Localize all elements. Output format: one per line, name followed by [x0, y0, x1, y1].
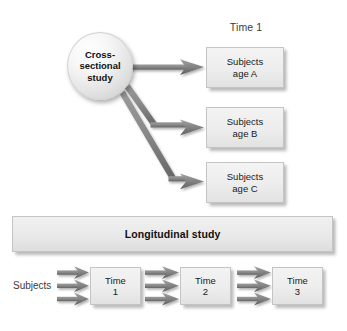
- subjects-age-b-label: Subjects age B: [227, 116, 263, 139]
- subjects-age-a-label: Subjects age A: [227, 56, 263, 79]
- subjects-age-a-line-1: Subjects: [227, 56, 263, 67]
- arrow-to-subjects-age-b: [125, 84, 204, 135]
- subjects-age-b-line-2: age B: [233, 128, 258, 139]
- longitudinal-subjects-label: Subjects: [13, 280, 51, 291]
- time-3-box[interactable]: Time 3: [272, 267, 323, 305]
- arrow-to-subjects-age-a: [129, 59, 204, 75]
- diagram-canvas: Time 1 Cross- sectional study Subjects a…: [0, 0, 347, 331]
- arrow-group-time-1-to-time-2: [145, 266, 179, 305]
- time-3-label: Time 3: [287, 275, 308, 298]
- subjects-age-a-box[interactable]: Subjects age A: [206, 47, 284, 88]
- longitudinal-study-label: Longitudinal study: [125, 228, 221, 240]
- subjects-age-b-box[interactable]: Subjects age B: [206, 107, 284, 148]
- cross-sectional-label-line-2: sectional: [79, 60, 120, 71]
- time-1-line-2: 1: [113, 286, 118, 297]
- subjects-age-c-line-2: age C: [232, 183, 257, 194]
- longitudinal-study-bar[interactable]: Longitudinal study: [12, 216, 333, 252]
- cross-sectional-study-node[interactable]: Cross- sectional study: [67, 32, 133, 100]
- cross-sectional-study-label: Cross- sectional study: [68, 49, 132, 84]
- cross-sectional-label-line-1: Cross-: [85, 49, 115, 60]
- subjects-age-c-label: Subjects age C: [227, 171, 263, 194]
- cross-sectional-time-header: Time 1: [206, 21, 286, 33]
- arrow-group-subjects-to-time-1: [57, 266, 89, 305]
- time-2-line-2: 2: [203, 286, 208, 297]
- time-1-box[interactable]: Time 1: [90, 267, 141, 305]
- time-3-line-1: Time: [287, 275, 308, 286]
- time-2-line-1: Time: [195, 275, 216, 286]
- time-1-line-1: Time: [105, 275, 126, 286]
- subjects-age-c-box[interactable]: Subjects age C: [206, 162, 284, 203]
- cross-sectional-label-line-3: study: [87, 72, 112, 83]
- time-1-label: Time 1: [105, 275, 126, 298]
- arrow-to-subjects-age-c: [120, 91, 204, 190]
- time-2-label: Time 2: [195, 275, 216, 298]
- time-2-box[interactable]: Time 2: [180, 267, 231, 305]
- arrow-group-time-2-to-time-3: [237, 266, 271, 305]
- subjects-age-a-line-2: age A: [233, 68, 257, 79]
- subjects-age-b-line-1: Subjects: [227, 116, 263, 127]
- subjects-age-c-line-1: Subjects: [227, 171, 263, 182]
- time-3-line-2: 3: [295, 286, 300, 297]
